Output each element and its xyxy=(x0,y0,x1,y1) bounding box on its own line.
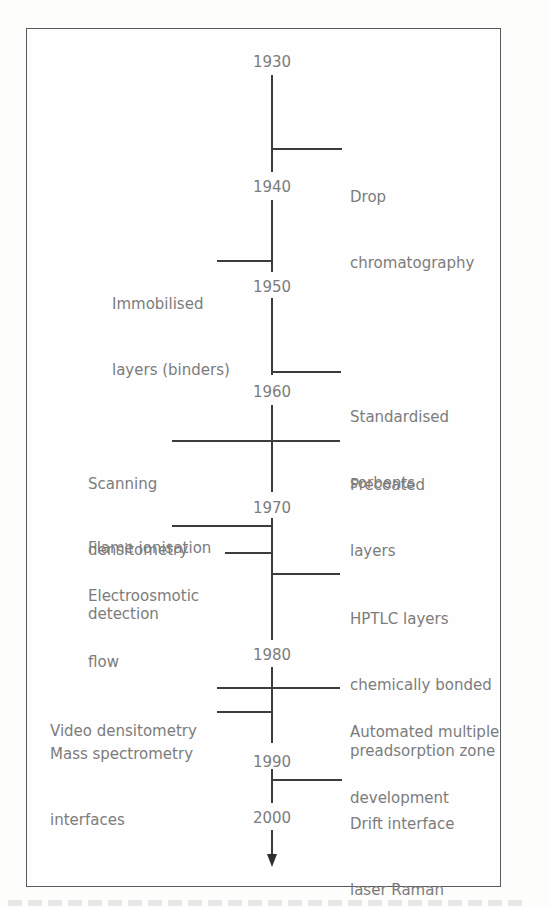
figure-caption-cropped xyxy=(0,898,549,908)
timeline-arrow-shaft xyxy=(271,830,273,856)
timeline-axis-1990s xyxy=(271,769,273,803)
branch-precoated-layers xyxy=(272,440,340,442)
year-label-1970: 1970 xyxy=(242,499,302,517)
year-label-1990: 1990 xyxy=(242,753,302,771)
year-label-1940: 1940 xyxy=(242,178,302,196)
timeline-axis-1980s xyxy=(271,667,273,743)
event-label-mass-spectrometry: Mass spectrometry interfaces xyxy=(50,699,193,853)
event-label-electroosmotic-flow: Electroosmotic flow xyxy=(88,541,199,695)
year-label-1950: 1950 xyxy=(242,278,302,296)
branch-automated-multiple-development xyxy=(272,687,340,689)
year-label-2000: 2000 xyxy=(242,809,302,827)
timeline-axis-1970s xyxy=(271,518,273,640)
branch-video-densitometry xyxy=(217,687,272,689)
branch-hptlc-layers xyxy=(272,573,340,575)
timeline-axis-1950s xyxy=(271,298,273,375)
branch-standardised-sorbents xyxy=(272,371,341,373)
branch-electroosmotic-flow xyxy=(225,552,272,554)
event-label-precoated-layers: Precoated layers xyxy=(350,430,425,584)
branch-drop-chromatography xyxy=(272,148,342,150)
event-label-drop-chromatography: Drop chromatography xyxy=(350,142,474,296)
event-label-drift-interface: Drift interface laser Raman techniques xyxy=(350,769,454,908)
timeline-axis-1930s xyxy=(271,75,273,172)
year-label-1980: 1980 xyxy=(242,646,302,664)
year-label-1930: 1930 xyxy=(242,53,302,71)
year-label-1960: 1960 xyxy=(242,383,302,401)
timeline-axis-1960s xyxy=(271,405,273,492)
event-label-immobilised-layers: Immobilised layers (binders) xyxy=(112,249,230,403)
arrow-down-icon xyxy=(267,854,277,867)
branch-mass-spectrometry xyxy=(217,711,272,713)
branch-drift-interface xyxy=(272,779,342,781)
